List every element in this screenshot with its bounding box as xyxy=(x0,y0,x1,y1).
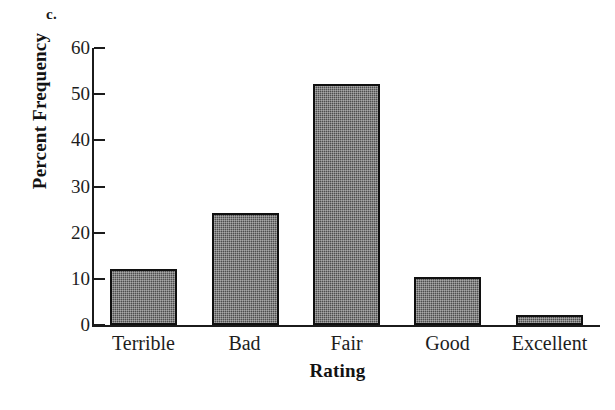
x-axis-tick-label: Good xyxy=(397,331,498,355)
y-axis-tick xyxy=(94,232,105,234)
y-axis-tick xyxy=(94,278,105,280)
y-axis-tick-label-text: 50 xyxy=(54,84,90,103)
y-axis-tick xyxy=(94,93,105,95)
y-axis-tick xyxy=(94,47,105,49)
page-bleed-text xyxy=(36,398,366,408)
x-axis-tick-label: Terrible xyxy=(93,331,194,355)
y-axis-tick-label-text: 20 xyxy=(54,223,90,242)
y-axis-tick xyxy=(94,186,105,188)
y-axis-tick-label-text: 10 xyxy=(54,269,90,288)
bar xyxy=(516,315,583,325)
x-axis-tick-label: Excellent xyxy=(499,331,600,355)
bar xyxy=(212,213,279,325)
bar xyxy=(414,277,481,325)
y-axis-tick xyxy=(94,139,105,141)
y-axis-tick-label-text: 60 xyxy=(54,38,90,57)
bar xyxy=(110,269,177,325)
x-axis-line xyxy=(92,325,600,327)
bar-chart: 0102030405060 TerribleBadFairGoodExcelle… xyxy=(0,0,615,410)
x-axis-title: Rating xyxy=(0,360,615,382)
y-axis-tick-label-text: 40 xyxy=(54,130,90,149)
y-axis-tick-label-text: 30 xyxy=(54,177,90,196)
x-axis-title-text: Rating xyxy=(309,360,365,382)
y-axis-line xyxy=(92,48,94,327)
y-axis-tick xyxy=(94,324,105,326)
x-axis-tick-label: Bad xyxy=(194,331,295,355)
y-axis-title: Percent Frequency xyxy=(29,0,51,231)
bar xyxy=(313,84,380,325)
x-axis-tick-label: Fair xyxy=(296,331,397,355)
y-axis-tick-label-text: 0 xyxy=(54,315,90,334)
